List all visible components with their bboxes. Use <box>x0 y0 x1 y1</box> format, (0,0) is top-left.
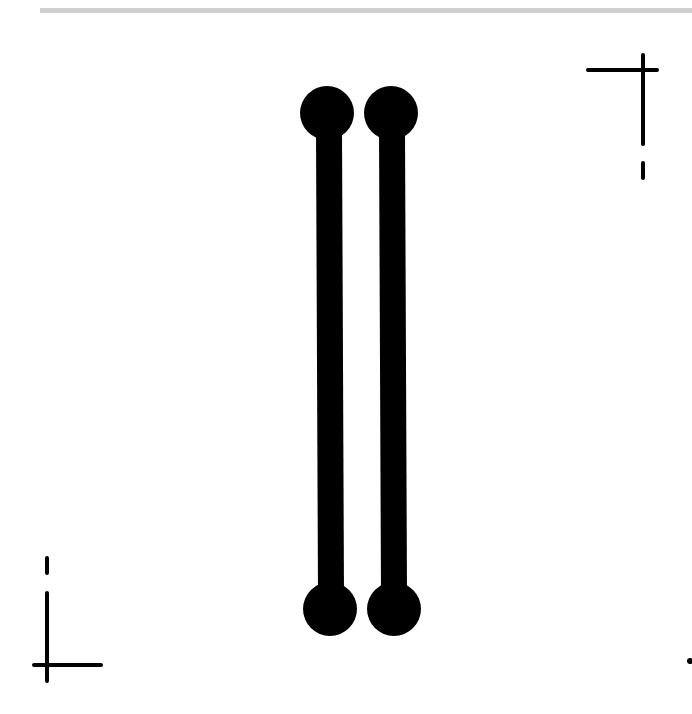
bar-top-cap <box>364 86 418 140</box>
right-dumbbell <box>364 86 421 636</box>
bar-top-cap <box>300 86 354 140</box>
bar-bottom-cap <box>303 582 357 636</box>
bar-bottom-cap <box>367 582 421 636</box>
left-dumbbell <box>300 86 357 636</box>
crop-marks <box>34 55 692 681</box>
bar-shaft <box>392 130 394 595</box>
dumbbell-bars <box>300 86 421 636</box>
edge-dot <box>687 658 692 664</box>
bar-shaft <box>329 130 331 595</box>
drawing-canvas <box>0 0 692 714</box>
